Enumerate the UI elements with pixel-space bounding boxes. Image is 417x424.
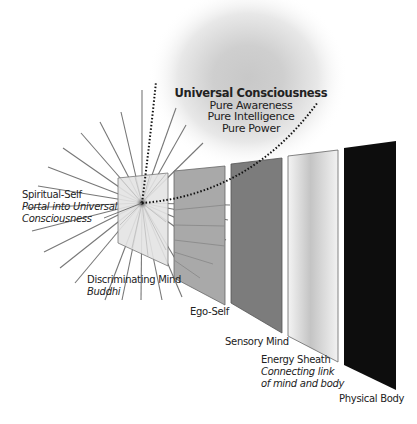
- label-discriminating-mind: Discriminating Mind Buddhi: [87, 274, 181, 298]
- label-spiritual-self-subtitle: Portal into Universal: [22, 201, 117, 213]
- label-physical-body: Physical Body: [339, 393, 404, 405]
- label-spiritual-self-subtitle2: Consciousness: [22, 213, 117, 225]
- label-ego-self: Ego-Self: [190, 306, 229, 318]
- panel-energy-sheath: [288, 150, 338, 362]
- label-spiritual-self: Spiritual-Self Portal into Universal Con…: [22, 189, 117, 225]
- label-spiritual-self-name: Spiritual-Self: [22, 189, 117, 201]
- label-energy-sheath-subtitle: Connecting link: [261, 366, 344, 378]
- label-energy-sheath: Energy Sheath Connecting link of mind an…: [261, 354, 344, 390]
- label-sensory-mind: Sensory Mind: [225, 336, 289, 348]
- consciousness-layers-diagram: Universal Consciousness Pure Awareness P…: [0, 0, 417, 424]
- label-energy-sheath-subtitle2: of mind and body: [261, 378, 344, 390]
- label-discriminating-mind-name: Discriminating Mind: [87, 274, 181, 286]
- universal-consciousness-block: Universal Consciousness Pure Awareness P…: [158, 88, 344, 134]
- panel-physical-body: [344, 141, 396, 390]
- attribute-pure-intelligence: Pure Intelligence: [158, 111, 344, 123]
- universal-glow: [148, 0, 348, 170]
- label-discriminating-mind-subtitle: Buddhi: [87, 286, 181, 298]
- panel-sensory-mind: [231, 158, 282, 333]
- panel-ego-self: [174, 166, 225, 305]
- label-energy-sheath-name: Energy Sheath: [261, 354, 344, 366]
- attribute-pure-power: Pure Power: [158, 123, 344, 135]
- title-universal-consciousness: Universal Consciousness: [175, 86, 328, 100]
